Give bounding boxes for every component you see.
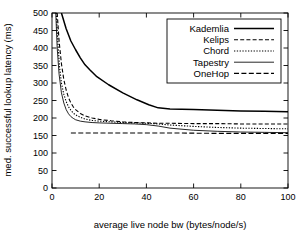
y-tick-label: 200 bbox=[33, 113, 48, 123]
line-chart: 0501001502002503003504004505000204060801… bbox=[0, 0, 307, 235]
y-tick-label: 100 bbox=[33, 148, 48, 158]
y-tick-label: 50 bbox=[38, 166, 48, 176]
x-axis-title: average live node bw (bytes/node/s) bbox=[94, 219, 247, 230]
legend-label: Tapestry bbox=[193, 57, 229, 68]
x-tick-label: 100 bbox=[280, 192, 295, 202]
y-tick-label: 150 bbox=[33, 131, 48, 141]
figure: 0501001502002503003504004505000204060801… bbox=[0, 0, 307, 235]
y-tick-label: 250 bbox=[33, 96, 48, 106]
y-tick-label: 500 bbox=[33, 8, 48, 18]
y-tick-label: 450 bbox=[33, 26, 48, 36]
y-axis-title: med. successful lookup latency (ms) bbox=[2, 23, 13, 176]
y-tick-label: 300 bbox=[33, 78, 48, 88]
y-tick-label: 400 bbox=[33, 43, 48, 53]
y-tick-label: 0 bbox=[43, 183, 48, 193]
x-tick-label: 20 bbox=[94, 192, 104, 202]
x-tick-label: 80 bbox=[236, 192, 246, 202]
legend-label: OneHop bbox=[194, 68, 229, 79]
y-tick-label: 350 bbox=[33, 61, 48, 71]
x-tick-label: 0 bbox=[49, 192, 54, 202]
x-tick-label: 40 bbox=[141, 192, 151, 202]
legend-label: Kademlia bbox=[189, 23, 229, 34]
legend-label: Chord bbox=[203, 45, 229, 56]
x-tick-label: 60 bbox=[189, 192, 199, 202]
legend-label: Kelips bbox=[203, 34, 229, 45]
legend: KademliaKelipsChordTapestryOneHop bbox=[167, 19, 281, 83]
